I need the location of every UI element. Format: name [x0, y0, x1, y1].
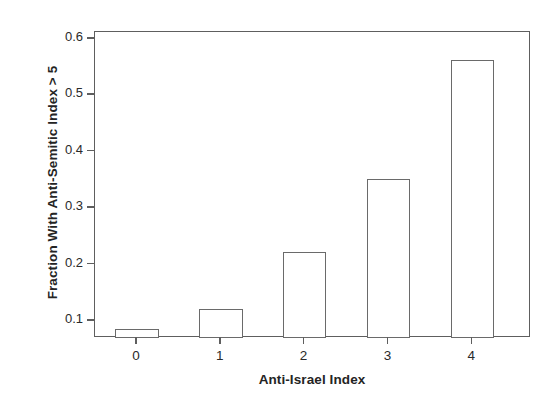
bar	[367, 179, 411, 338]
y-axis-tick-label: 0.2	[65, 255, 83, 270]
bar-chart-figure: Fraction With Anti-Semitic Index > 5 0.1…	[0, 0, 554, 403]
x-axis-tick-mark	[219, 337, 221, 344]
x-axis-tick-mark	[135, 337, 137, 344]
y-axis-title: Fraction With Anti-Semitic Index > 5	[45, 13, 60, 353]
y-axis-tick-label: 0.5	[65, 85, 83, 100]
bar	[199, 309, 243, 338]
x-axis-tick-label: 4	[457, 348, 485, 363]
y-axis-tick-mark	[87, 93, 94, 95]
y-axis-tick-label: 0.4	[65, 142, 83, 157]
y-axis-tick-mark	[87, 319, 94, 321]
y-axis-tick-label: 0.1	[65, 311, 83, 326]
y-axis-tick-mark	[87, 206, 94, 208]
y-axis-tick-label: 0.6	[65, 29, 83, 44]
y-axis-tick-mark	[87, 263, 94, 265]
x-axis-tick-mark	[303, 337, 305, 344]
x-axis-title: Anti-Israel Index	[94, 372, 530, 387]
plot-area	[94, 31, 530, 337]
y-axis-tick-mark	[87, 37, 94, 39]
x-axis-tick-mark	[387, 337, 389, 344]
x-axis-tick-label: 0	[122, 348, 150, 363]
x-axis-tick-label: 1	[206, 348, 234, 363]
bar	[283, 252, 327, 338]
y-axis-tick-label: 0.3	[65, 198, 83, 213]
bar	[115, 329, 159, 338]
x-axis-tick-mark	[471, 337, 473, 344]
x-axis-tick-label: 3	[373, 348, 401, 363]
y-axis-tick-mark	[87, 150, 94, 152]
x-axis-tick-label: 2	[290, 348, 318, 363]
bar	[451, 60, 495, 338]
